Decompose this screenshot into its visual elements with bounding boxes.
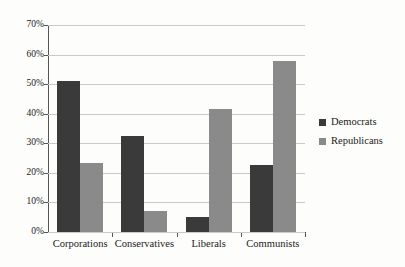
bar-republicans-liberals <box>209 109 232 232</box>
y-axis-labels: 0%10%20%30%40%50%60%70% <box>0 25 44 233</box>
y-axis-tick-mark <box>44 143 48 144</box>
bar-chart: 0%10%20%30%40%50%60%70% CorporationsCons… <box>0 0 405 267</box>
bar-democrats-corporations <box>57 81 80 232</box>
y-axis-tick-mark <box>44 114 48 115</box>
y-axis-tick-mark <box>44 55 48 56</box>
bar-democrats-liberals <box>186 217 209 232</box>
y-axis-tick-mark <box>44 173 48 174</box>
x-axis-tick-mark <box>112 233 113 237</box>
y-axis-tick-label: 40% <box>4 109 44 119</box>
bar-democrats-conservatives <box>121 136 144 232</box>
y-axis-tick-label: 20% <box>4 168 44 178</box>
legend-item-democrats: Democrats <box>319 117 405 128</box>
y-axis-tick-label: 70% <box>4 20 44 30</box>
bar-republicans-conservatives <box>144 211 167 232</box>
x-axis-label-liberals: Liberals <box>177 238 241 250</box>
x-axis-tick-mark <box>177 233 178 237</box>
bar-republicans-corporations <box>80 163 103 232</box>
y-axis-tick-label: 10% <box>4 197 44 207</box>
chart-legend: Democrats Republicans <box>319 117 405 155</box>
x-axis-tick-mark <box>241 233 242 237</box>
y-axis-tick-mark <box>44 25 48 26</box>
legend-item-republicans: Republicans <box>319 136 405 147</box>
bar-group <box>186 25 232 232</box>
x-axis-label-corporations: Corporations <box>48 238 112 250</box>
bar-democrats-communists <box>250 165 273 232</box>
y-axis-tick-mark <box>44 232 48 233</box>
bar-republicans-communists <box>273 61 296 233</box>
y-axis-tick-mark <box>44 84 48 85</box>
bar-group <box>57 25 103 232</box>
legend-label-republicans: Republicans <box>331 136 383 147</box>
y-axis-tick-label: 60% <box>4 50 44 60</box>
y-axis-tick-label: 50% <box>4 79 44 89</box>
plot-area <box>48 25 305 232</box>
y-axis-tick-label: 30% <box>4 138 44 148</box>
x-axis-tick-mark <box>305 233 306 237</box>
y-axis-tick-label: 0% <box>4 227 44 237</box>
bar-group <box>121 25 167 232</box>
legend-label-democrats: Democrats <box>331 117 376 128</box>
x-axis-label-communists: Communists <box>241 238 305 250</box>
y-axis-tick-mark <box>44 202 48 203</box>
x-axis-label-conservatives: Conservatives <box>112 238 176 250</box>
legend-swatch-icon-democrats <box>319 119 326 126</box>
legend-swatch-icon-republicans <box>319 138 326 145</box>
bar-group <box>250 25 296 232</box>
